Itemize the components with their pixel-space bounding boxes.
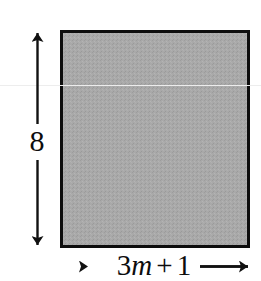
rectangle-shape: [62, 32, 249, 247]
geometry-figure: 8 3m+1: [0, 0, 261, 281]
width-dimension-label: 3m+1: [86, 251, 222, 280]
width-constant: 1: [177, 249, 192, 281]
width-variable: m: [131, 249, 152, 281]
rectangle-body: [62, 32, 249, 247]
width-operator: +: [152, 249, 176, 281]
height-dimension-label: 8: [24, 126, 50, 156]
width-coefficient: 3: [117, 249, 132, 281]
